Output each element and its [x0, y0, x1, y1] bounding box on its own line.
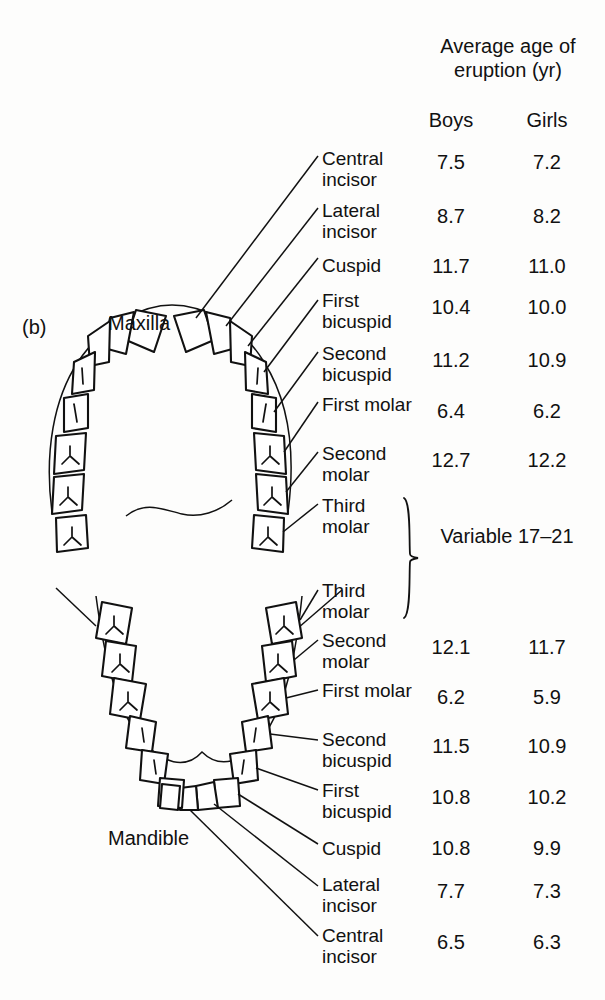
tooth-maxilla-first-bicuspid-l	[72, 352, 95, 394]
value-boys: 10.8	[412, 838, 490, 859]
variable-eruption-note: Variable 17–21	[432, 524, 582, 548]
column-header-girls: Girls	[508, 110, 586, 131]
value-girls: 12.2	[508, 450, 586, 471]
palate-wave-line	[126, 500, 232, 516]
tooth-mandible-lateral-incisor-r	[196, 782, 218, 810]
leader-maxilla-cuspid	[248, 258, 318, 346]
tooth-label: Second molar	[322, 630, 414, 673]
leader-mandible-second-bicuspid	[270, 734, 318, 740]
tooth-mandible-second-molar-r	[262, 641, 296, 682]
tooth-mandible-lateral-incisor-l	[160, 784, 180, 810]
value-boys: 12.7	[412, 450, 490, 471]
value-boys: 10.8	[412, 787, 490, 808]
cusp-mark-6	[82, 368, 83, 384]
leader-maxilla-first-molar	[284, 402, 318, 452]
maxilla-arch	[49, 305, 291, 552]
tooth-label: First bicuspid	[322, 780, 414, 823]
tooth-label: First molar	[322, 394, 414, 415]
leader-maxilla-lateral-incisor	[226, 208, 318, 326]
value-girls: 10.0	[508, 297, 586, 318]
value-boys: 6.2	[412, 687, 490, 708]
leader-mandible-lateral-incisor	[214, 804, 318, 886]
tooth-mandible-second-molar-l	[102, 641, 136, 682]
leader-maxilla-first-bicuspid	[264, 300, 318, 372]
value-girls: 5.9	[508, 687, 586, 708]
value-boys: 8.7	[412, 206, 490, 227]
figure-letter: (b)	[22, 317, 46, 338]
value-girls: 6.3	[508, 932, 586, 953]
value-boys: 11.5	[412, 736, 490, 757]
value-boys: 7.5	[412, 152, 490, 173]
leader-mandible-third-molar	[300, 590, 318, 620]
column-header-boys: Boys	[412, 110, 490, 131]
leader-maxilla-second-bicuspid	[274, 352, 318, 412]
cusp-mark-1	[257, 368, 258, 384]
tooth-mandible-second-bicuspid-l	[126, 716, 156, 752]
tooth-label: Lateral incisor	[322, 200, 414, 243]
third-molar-brace	[398, 496, 424, 620]
leader-maxilla-central-incisor	[196, 156, 318, 318]
leader-mandible-first-bicuspid	[256, 768, 318, 790]
value-girls: 11.0	[508, 256, 586, 277]
maxilla-label: Maxilla	[108, 313, 170, 334]
value-boys: 11.7	[412, 256, 490, 277]
value-girls: 11.7	[508, 637, 586, 658]
tooth-label: Second molar	[322, 443, 414, 486]
leader-mandible-cuspid	[238, 794, 318, 844]
tooth-label: Second bicuspid	[322, 343, 414, 386]
figure-container: Average age of eruption (yr) Boys Girls …	[0, 0, 605, 1000]
tooth-label: Second bicuspid	[322, 729, 414, 772]
mandible-guide-left	[56, 588, 96, 626]
tooth-label: First molar	[322, 680, 414, 701]
tooth-label: First bicuspid	[322, 290, 414, 333]
value-girls: 10.9	[508, 736, 586, 757]
value-girls: 10.2	[508, 787, 586, 808]
tooth-label: Central incisor	[322, 925, 414, 968]
leader-mandible-central-incisor	[190, 810, 318, 936]
mandible-label: Mandible	[108, 828, 189, 849]
value-boys: 10.4	[412, 297, 490, 318]
value-girls: 6.2	[508, 401, 586, 422]
tooth-label: Central incisor	[322, 148, 414, 191]
value-boys: 6.5	[412, 932, 490, 953]
value-boys: 11.2	[412, 350, 490, 371]
value-girls: 10.9	[508, 350, 586, 371]
leader-mandible-first-molar	[286, 690, 318, 698]
value-girls: 7.3	[508, 881, 586, 902]
mandible-arch	[56, 588, 342, 810]
tooth-mandible-second-bicuspid-r	[242, 716, 272, 752]
tooth-label: Cuspid	[322, 255, 414, 276]
leader-mandible-second-molar	[294, 640, 318, 660]
value-boys: 7.7	[412, 881, 490, 902]
tooth-label: Cuspid	[322, 838, 414, 859]
value-boys: 12.1	[412, 637, 490, 658]
tooth-maxilla-first-bicuspid-r	[245, 352, 268, 394]
value-girls: 8.2	[508, 206, 586, 227]
table-header-title: Average age of eruption (yr)	[418, 34, 598, 83]
value-girls: 7.2	[508, 152, 586, 173]
value-girls: 9.9	[508, 838, 586, 859]
tooth-label: Lateral incisor	[322, 874, 414, 917]
value-boys: 6.4	[412, 401, 490, 422]
